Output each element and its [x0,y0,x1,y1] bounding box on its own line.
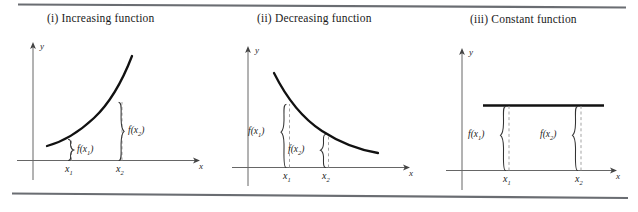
tick-label-x1-constant: x1 [503,173,511,186]
value-label-fx1-constant: f(x1) [468,129,484,141]
tick-label-x1-decreasing: x1 [283,170,291,183]
fx2-base: f(x [128,125,138,135]
bottom-rule [12,194,628,199]
fx1-suffix: ) [261,126,264,136]
tick-x2-sub: 2 [120,169,123,176]
value-label-fx1-increasing: f(x1) [77,144,93,156]
panel-title-constant: (iii) Constant function [470,13,577,25]
fx1-base: f(x [468,129,478,139]
value-label-fx2-constant: f(x2) [540,129,556,141]
fx2-suffix: ) [301,144,304,154]
y-axis-label-constant: y [469,47,473,57]
fx2-suffix: ) [141,125,144,135]
fx1-suffix: ) [90,144,93,154]
brace-fx2 [573,106,578,170]
value-label-fx1-decreasing: f(x1) [248,126,264,138]
tick-x2-sub: 2 [579,179,582,186]
fx1-suffix: ) [481,129,484,139]
fx2-suffix: ) [553,129,556,139]
top-rule [18,5,626,8]
tick-label-x2-decreasing: x2 [322,170,330,183]
panel-decreasing [232,46,410,186]
panel-title-increasing: (i) Increasing function [47,12,154,24]
brace-fx2 [321,134,326,167]
increasing-curve [47,56,132,146]
x-axis-label-increasing: x [199,161,203,171]
fx1-base: f(x [248,126,258,136]
panel-title-decreasing: (ii) Decreasing function [257,12,372,24]
figure-graphics [0,0,638,212]
tick-x1-sub: 1 [69,169,72,176]
fx2-base: f(x [540,129,550,139]
tick-x2-sub: 2 [326,176,329,183]
value-label-fx2-increasing: f(x2) [128,125,144,137]
tick-x1-sub: 1 [507,179,510,186]
tick-label-x2-constant: x2 [575,173,583,186]
fx2-base: f(x [288,144,298,154]
brace-fx1 [501,106,506,170]
panel-constant [446,48,617,190]
panel-increasing [17,42,200,180]
tick-label-x2-increasing: x2 [116,163,124,176]
x-axis-label-decreasing: x [409,168,413,178]
decreasing-curve [274,73,378,153]
brace-fx1 [69,139,74,160]
value-label-fx2-decreasing: f(x2) [288,144,304,156]
figure-container: (i) Increasing function (ii) Decreasing … [0,0,638,212]
tick-label-x1-increasing: x1 [65,163,73,176]
brace-fx1 [281,104,286,167]
y-axis-label-decreasing: y [255,45,259,55]
x-axis-label-constant: x [616,171,620,181]
tick-x1-sub: 1 [287,176,290,183]
y-axis-label-increasing: y [40,41,44,51]
fx1-base: f(x [77,144,87,154]
